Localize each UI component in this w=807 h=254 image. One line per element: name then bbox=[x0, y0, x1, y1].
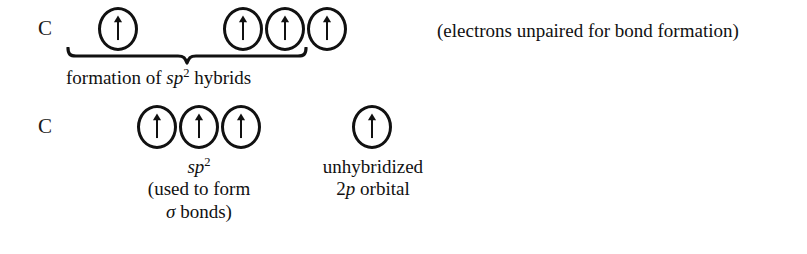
up-arrow-icon bbox=[310, 10, 344, 48]
up-arrow-icon bbox=[226, 10, 260, 48]
orbital-row2-3 bbox=[221, 105, 261, 149]
brace-caption: formation of sp2 hybrids bbox=[66, 67, 251, 89]
brace-caption-prefix: formation of bbox=[66, 67, 166, 88]
up-arrow-icon bbox=[182, 108, 216, 146]
orbital-row2-4-unhybridized-2p bbox=[352, 105, 392, 149]
p-caption-italic: p bbox=[346, 178, 356, 199]
brace-caption-suffix: hybrids bbox=[189, 67, 251, 88]
up-arrow-icon bbox=[355, 108, 389, 146]
p-caption-rest: orbital bbox=[355, 178, 409, 199]
unhybridized-2p-caption: unhybridized 2p orbital bbox=[303, 156, 443, 201]
sp2-caption-italic: sp bbox=[187, 156, 204, 177]
orbital-diagram-canvas: C formation of sp2 hybrids (electro bbox=[0, 0, 807, 254]
up-arrow-icon bbox=[268, 10, 302, 48]
up-arrow-icon bbox=[140, 108, 174, 146]
sp2-hybrid-caption: sp2 (used to form σ bonds) bbox=[108, 156, 290, 223]
up-arrow-icon bbox=[224, 108, 258, 146]
hybridization-brace-icon bbox=[66, 47, 308, 65]
sp2-caption-superscript: 2 bbox=[204, 155, 210, 169]
sp2-caption-line3-rest: bonds) bbox=[175, 201, 231, 222]
orbital-row1-3 bbox=[265, 7, 305, 51]
unpaired-electrons-note: (electrons unpaired for bond formation) bbox=[437, 20, 739, 42]
p-caption-number: 2 bbox=[336, 178, 346, 199]
up-arrow-icon bbox=[101, 10, 135, 48]
orbital-row1-2 bbox=[223, 7, 263, 51]
orbital-row2-2 bbox=[179, 105, 219, 149]
orbital-row2-1 bbox=[137, 105, 177, 149]
atom-label-carbon-row2: C bbox=[38, 116, 52, 137]
brace-caption-italic: sp bbox=[166, 67, 183, 88]
orbital-row1-4 bbox=[307, 7, 347, 51]
sp2-caption-line2: (used to form bbox=[148, 178, 250, 199]
atom-label-carbon-row1: C bbox=[38, 18, 52, 39]
orbital-row1-1 bbox=[98, 7, 138, 51]
p-caption-line1: unhybridized bbox=[323, 156, 423, 177]
